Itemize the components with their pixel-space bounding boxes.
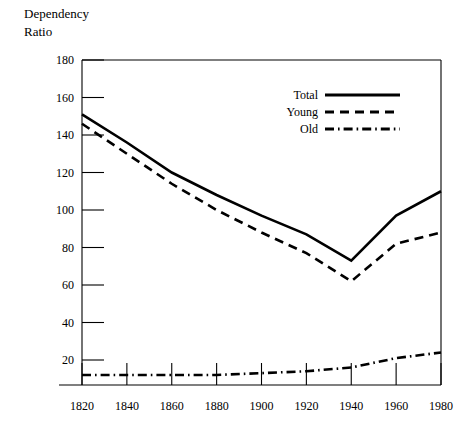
legend-label-total: Total (294, 88, 319, 102)
y-tick-label-120: 120 (56, 166, 74, 180)
x-tick-label-1860: 1860 (160, 399, 184, 413)
x-tick-label-1980: 1980 (429, 399, 453, 413)
dependency-ratio-line-chart: Dependency Ratio 20406080100120140160180… (0, 0, 473, 443)
y-tick-label-20: 20 (62, 353, 74, 367)
legend-label-old: Old (300, 122, 318, 136)
y-tick-label-140: 140 (56, 128, 74, 142)
x-tick-label-1960: 1960 (384, 399, 408, 413)
y-axis: 20406080100120140160180 (56, 53, 104, 367)
y-tick-label-160: 160 (56, 91, 74, 105)
chart-legend: TotalYoungOld (287, 88, 400, 136)
legend-label-young: Young (287, 105, 318, 119)
x-tick-label-1820: 1820 (70, 399, 94, 413)
y-tick-label-60: 60 (62, 278, 74, 292)
x-tick-label-1920: 1920 (294, 399, 318, 413)
data-series-group (82, 114, 441, 375)
y-tick-label-80: 80 (62, 241, 74, 255)
y-tick-label-180: 180 (56, 53, 74, 67)
x-tick-label-1880: 1880 (205, 399, 229, 413)
x-axis: 182018401860188019001920194019601980 (70, 363, 453, 413)
series-line-total (82, 114, 441, 260)
x-tick-label-1940: 1940 (339, 399, 363, 413)
chart-title-line-1: Dependency (24, 6, 89, 21)
x-tick-label-1900: 1900 (250, 399, 274, 413)
y-tick-label-100: 100 (56, 203, 74, 217)
plot-frame (59, 60, 441, 385)
chart-container: Dependency Ratio 20406080100120140160180… (0, 0, 473, 443)
y-tick-label-40: 40 (62, 316, 74, 330)
x-tick-label-1840: 1840 (115, 399, 139, 413)
chart-title-line-2: Ratio (24, 24, 52, 39)
